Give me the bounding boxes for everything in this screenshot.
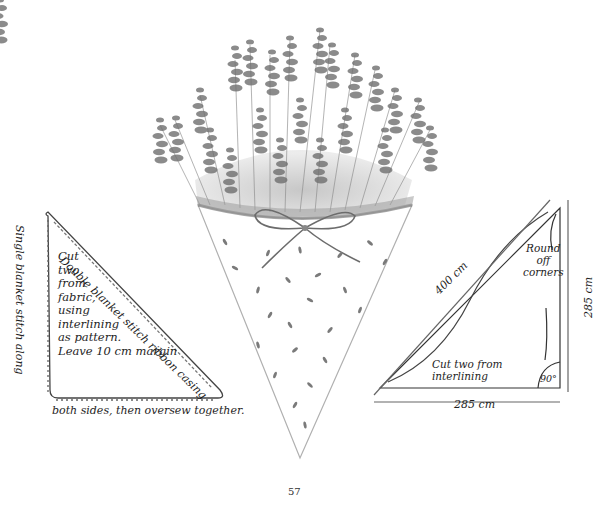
right-angle-label: 90°: [540, 373, 557, 384]
left-bottom-label: both sides, then oversew together.: [52, 404, 244, 417]
left-side-label: Single blanket stitch along: [13, 225, 26, 375]
cut-interlining-note: Cut two from interlining: [432, 358, 502, 382]
round-corners-note: Round off corners: [523, 242, 564, 278]
horizontal-dimension-label: 285 cm: [454, 398, 495, 411]
left-instructions: Cut two from fabric, using interlining a…: [58, 250, 177, 358]
book-page: Double blanket stitch ribbon casing Sing…: [0, 0, 606, 522]
vertical-dimension-label: 285 cm: [582, 277, 595, 318]
page-number: 57: [288, 486, 301, 497]
